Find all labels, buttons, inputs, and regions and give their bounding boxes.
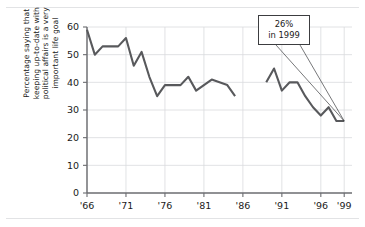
y-tick-label: 0 (73, 187, 79, 198)
y-tick-label: 40 (67, 77, 79, 88)
annotation-value: 26% (259, 19, 309, 30)
y-tick-label: 30 (67, 104, 79, 115)
annotation-year: in 1999 (259, 30, 309, 41)
x-tick-label: '96 (313, 200, 328, 211)
y-tick-label: 50 (67, 49, 79, 60)
x-tick-label: '86 (236, 200, 251, 211)
series-line (87, 30, 235, 96)
x-tick-label: '81 (197, 200, 212, 211)
y-tick-labels: 0102030405060 (67, 21, 79, 198)
plot-area: 0102030405060 '66'71'76'81'86'91'96'99 (0, 0, 365, 227)
y-tick-label: 10 (67, 160, 79, 171)
series-line (266, 69, 344, 122)
chart-figure: Percentage saying that keeping up-to-dat… (0, 0, 365, 227)
y-gridlines (87, 27, 352, 165)
x-tick-labels: '66'71'76'81'86'91'96'99 (80, 200, 352, 211)
x-tick-label: '76 (158, 200, 173, 211)
x-tick-label: '91 (275, 200, 290, 211)
annotation-callout: 26% in 1999 (258, 15, 310, 45)
x-tick-label: '99 (337, 200, 352, 211)
y-tick-label: 60 (67, 21, 79, 32)
y-tick-label: 20 (67, 132, 79, 143)
x-tick-label: '66 (80, 200, 95, 211)
x-tick-label: '71 (119, 200, 134, 211)
